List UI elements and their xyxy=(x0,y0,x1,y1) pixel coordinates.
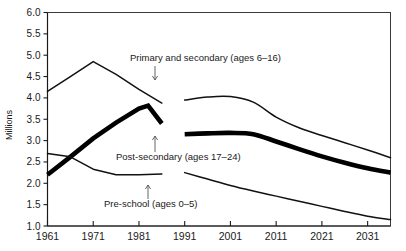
x-tick-label: 1971 xyxy=(82,230,106,242)
x-tick-label: 2031 xyxy=(356,230,380,242)
annotation-layer: Primary and secondary (ages 6–16)Post-se… xyxy=(104,52,281,209)
y-tick-label: 4.0 xyxy=(27,92,41,103)
series-primary-and-secondary-ages-6-16-historical xyxy=(48,62,162,103)
y-tick-label: 3.0 xyxy=(27,135,41,146)
annotation-label-primary: Primary and secondary (ages 6–16) xyxy=(130,52,281,63)
chart-container: 1.01.52.02.53.03.54.04.55.05.56.0 196119… xyxy=(0,0,406,251)
y-tick-label: 2.5 xyxy=(27,156,41,167)
x-tick-label: 1961 xyxy=(36,230,60,242)
y-tick-label: 5.5 xyxy=(27,28,41,39)
y-axis-title: Millions xyxy=(4,109,14,140)
series-layer xyxy=(48,62,391,220)
x-tick-label: 2011 xyxy=(265,230,288,242)
x-tick-label: 2001 xyxy=(219,230,243,242)
x-axis-ticks: 19611971198119912001201120212031 xyxy=(36,221,380,242)
x-tick-label: 1981 xyxy=(127,230,151,242)
plot-frame xyxy=(48,13,391,227)
population-projection-line-chart: 1.01.52.02.53.03.54.04.55.05.56.0 196119… xyxy=(0,0,406,251)
series-post-secondary-ages-17-24-historical xyxy=(48,106,162,175)
y-tick-label: 2.0 xyxy=(27,178,41,189)
x-tick-label: 2021 xyxy=(310,230,334,242)
y-tick-label: 4.5 xyxy=(27,71,41,82)
y-tick-label: 6.0 xyxy=(27,7,41,18)
y-tick-label: 1.5 xyxy=(27,199,41,210)
annotation-label-postsecondary: Post-secondary (ages 17–24) xyxy=(116,151,241,162)
y-tick-label: 3.5 xyxy=(27,114,41,125)
y-tick-label: 5.0 xyxy=(27,50,41,61)
y-axis-ticks: 1.01.52.02.53.03.54.04.55.05.56.0 xyxy=(27,7,48,232)
annotation-label-preschool: Pre-school (ages 0–5) xyxy=(104,198,197,209)
x-tick-label: 1991 xyxy=(173,230,197,242)
series-pre-school-ages-0-5-projected xyxy=(185,173,391,220)
series-primary-and-secondary-ages-6-16-projected xyxy=(185,96,391,157)
